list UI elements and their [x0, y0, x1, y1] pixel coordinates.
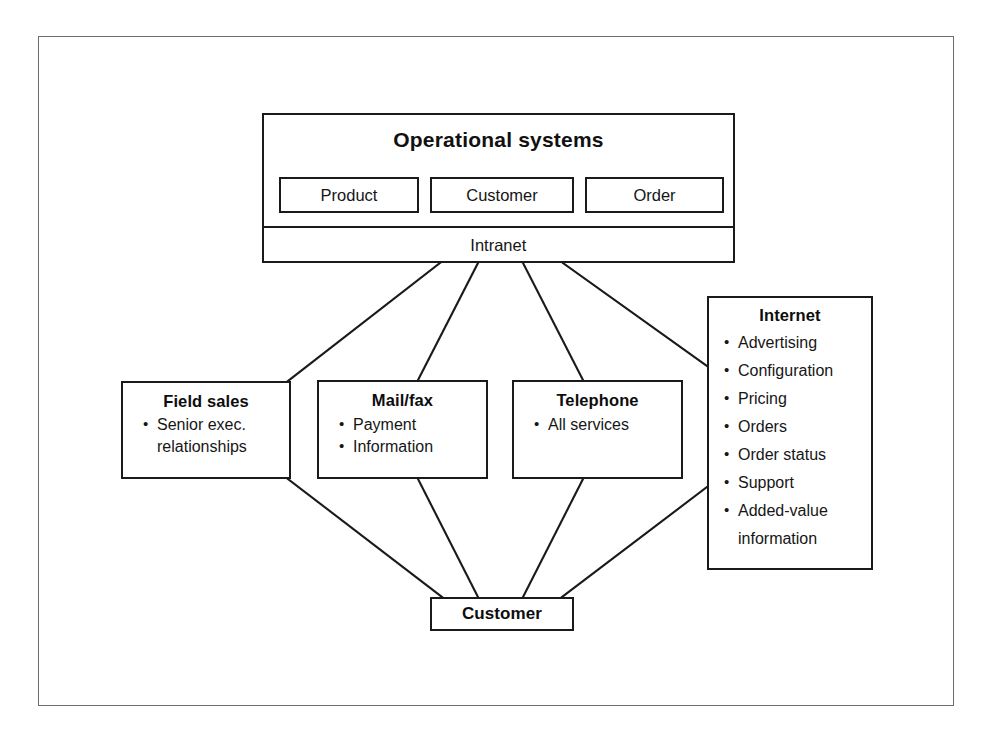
telephone-box: Telephone All services — [512, 380, 683, 479]
list-item: Information — [337, 436, 480, 458]
list-item: Added-value — [722, 497, 865, 525]
intranet-bar: Intranet — [264, 226, 733, 263]
list-item: Orders — [722, 413, 865, 441]
internet-box: Internet Advertising Configuration Prici… — [707, 296, 873, 570]
internet-list: Advertising Configuration Pricing Orders… — [709, 329, 871, 553]
list-item: Pricing — [722, 385, 865, 413]
customer-box: Customer — [430, 597, 574, 631]
subsystem-row: Product Customer Order — [264, 177, 737, 215]
customer-title: Customer — [432, 599, 572, 629]
mail-fax-box: Mail/fax Payment Information — [317, 380, 488, 479]
field-sales-box: Field sales Senior exec. relationships — [121, 381, 291, 479]
list-item: information — [722, 525, 865, 553]
list-item: Order status — [722, 441, 865, 469]
list-item: Support — [722, 469, 865, 497]
list-item: relationships — [141, 436, 283, 458]
field-sales-list: Senior exec. relationships — [123, 414, 289, 458]
list-item: Configuration — [722, 357, 865, 385]
internet-title: Internet — [709, 306, 871, 326]
field-sales-title: Field sales — [123, 392, 289, 412]
list-item: Payment — [337, 414, 480, 436]
diagram-canvas: Operational systems Product Customer Ord… — [0, 0, 991, 732]
subsystem-order[interactable]: Order — [585, 177, 724, 213]
subsystem-product[interactable]: Product — [279, 177, 419, 213]
operational-systems-box: Operational systems Product Customer Ord… — [262, 113, 735, 263]
list-item: All services — [532, 414, 675, 436]
list-item: Advertising — [722, 329, 865, 357]
telephone-title: Telephone — [514, 391, 681, 411]
mail-fax-title: Mail/fax — [319, 391, 486, 411]
subsystem-customer[interactable]: Customer — [430, 177, 574, 213]
list-item: Senior exec. — [141, 414, 283, 436]
operational-systems-title: Operational systems — [264, 128, 733, 152]
mail-fax-list: Payment Information — [319, 414, 486, 458]
telephone-list: All services — [514, 414, 681, 436]
